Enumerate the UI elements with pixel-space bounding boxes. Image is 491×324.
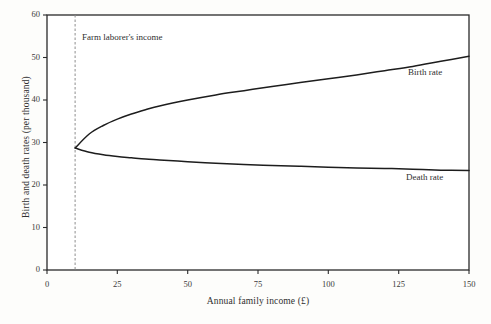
chart-figure: 0 10 20 30 40 50 60 0 25 50 75 100 125 1… [0,0,491,324]
x-tick-label-25: 25 [102,279,132,289]
death-rate-label: Death rate [406,172,443,182]
y-tick-label-60: 60 [18,9,40,19]
plot-area-background [47,15,469,270]
x-tick-label-150: 150 [454,279,484,289]
x-tick-label-50: 50 [173,279,203,289]
x-tick-label-75: 75 [243,279,273,289]
y-axis-title: Birth and death rates (per thousand) [21,57,31,237]
x-tick-label-0: 0 [32,279,62,289]
x-axis-title: Annual family income (£) [47,296,469,306]
birth-rate-label: Birth rate [408,67,442,77]
x-tick-label-125: 125 [384,279,414,289]
y-tick-label-0: 0 [18,264,40,274]
chart-canvas [0,0,491,324]
x-tick-label-100: 100 [313,279,343,289]
farm-laborer-income-label: Farm laborer's income [82,32,163,42]
